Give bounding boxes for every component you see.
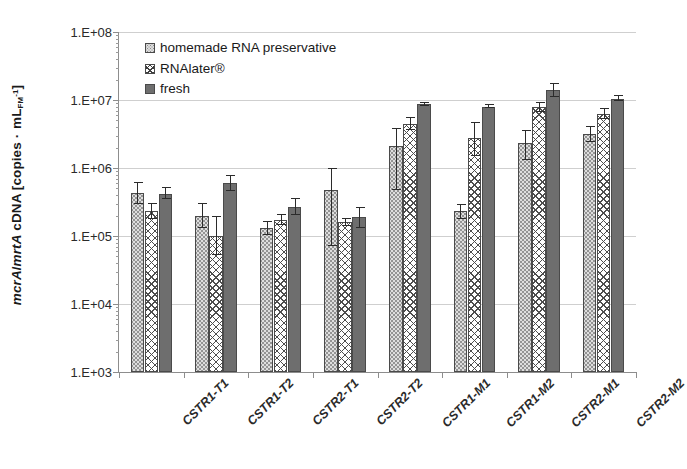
legend-swatch-rnalater-icon: [145, 64, 155, 74]
legend-item-rnalater: RNAlater®: [145, 59, 336, 80]
legend: homemade RNA preservative RNAlater® fres…: [145, 38, 336, 100]
error-bar: [539, 102, 540, 113]
error-bar-cap-bottom: [600, 118, 609, 119]
bar: [223, 183, 237, 372]
error-bar-cap-top: [471, 122, 480, 123]
error-bar-cap-top: [356, 207, 365, 208]
x-axis-category-label: CSTR2-T2: [374, 376, 426, 428]
error-bar-cap-top: [522, 130, 531, 131]
error-bar: [553, 83, 554, 98]
error-bar-cap-top: [600, 108, 609, 109]
y-axis-tick-label: 1.E+06: [42, 161, 112, 176]
error-bar: [331, 168, 332, 246]
bar: [597, 114, 611, 372]
error-bar-cap-bottom: [277, 224, 286, 225]
error-bar: [525, 130, 526, 160]
y-axis-tick-label: 1.E+07: [42, 93, 112, 108]
y-axis-unit-superscript: -1: [11, 89, 20, 96]
error-bar: [604, 108, 605, 119]
error-bar-cap-top: [392, 128, 401, 129]
bar: [482, 107, 496, 372]
error-bar-cap-bottom: [263, 234, 272, 235]
y-axis-tick-label: 1.E+04: [42, 297, 112, 312]
x-axis-category-label: CSTR2-T1: [309, 376, 361, 428]
x-axis-category-label: CSTR1-T1: [180, 376, 232, 428]
bar-group: [507, 32, 572, 372]
error-bar: [281, 214, 282, 225]
y-axis-tick-label: 1.E+05: [42, 229, 112, 244]
x-axis-category-label: CSTR2-M1: [568, 376, 622, 430]
error-bar-cap-bottom: [134, 203, 143, 204]
x-axis-category-label: CSTR1-T2: [244, 376, 296, 428]
error-bar-cap-top: [162, 187, 171, 188]
error-bar-cap-bottom: [328, 245, 337, 246]
error-bar-cap-bottom: [457, 218, 466, 219]
error-bar-cap-bottom: [226, 190, 235, 191]
error-bar-cap-top: [328, 168, 337, 169]
y-axis-slash: /: [9, 266, 24, 270]
error-bar-cap-bottom: [162, 198, 171, 199]
legend-item-homemade: homemade RNA preservative: [145, 38, 336, 59]
error-bar-cap-top: [406, 117, 415, 118]
error-bar: [474, 122, 475, 156]
y-axis-tick-labels: 1.E+081.E+071.E+061.E+051.E+041.E+03: [36, 0, 112, 420]
bar: [403, 124, 417, 372]
error-bar-cap-top: [457, 204, 466, 205]
error-bar-cap-bottom: [342, 225, 351, 226]
error-bar-cap-top: [586, 126, 595, 127]
error-bar-cap-top: [291, 198, 300, 199]
y-axis-title: mcrA/mrtA cDNA [copies · mLFM-1]: [9, 85, 24, 305]
legend-swatch-fresh-icon: [145, 84, 155, 94]
legend-label-fresh: fresh: [160, 79, 190, 100]
bar: [611, 99, 625, 372]
error-bar-cap-top: [198, 203, 207, 204]
error-bar: [410, 117, 411, 130]
error-bar-cap-top: [614, 95, 623, 96]
x-axis-category-labels: CSTR1-T1CSTR1-T2CSTR2-T1CSTR2-T2CSTR1-M1…: [118, 376, 635, 469]
y-axis-middot: ·: [9, 133, 24, 139]
error-bar-cap-top: [420, 102, 429, 103]
error-bar-cap-bottom: [406, 129, 415, 130]
y-axis-unit: mL: [9, 109, 24, 133]
bar-group: [571, 32, 636, 372]
error-bar-cap-top: [342, 218, 351, 219]
bar: [260, 228, 274, 372]
x-axis-category-label: CSTR2-M2: [633, 376, 687, 430]
bar: [145, 211, 159, 372]
error-bar: [151, 203, 152, 220]
bar: [532, 107, 546, 372]
error-bar: [202, 203, 203, 229]
y-axis-tick-label: 1.E+08: [42, 25, 112, 40]
bar: [195, 216, 209, 372]
error-bar-cap-bottom: [550, 96, 559, 97]
error-bar: [396, 128, 397, 190]
plot-area: homemade RNA preservative RNAlater® fres…: [118, 32, 636, 373]
bar: [159, 194, 173, 372]
error-bar-cap-bottom: [485, 107, 494, 108]
error-bar-cap-bottom: [522, 159, 531, 160]
error-bar-cap-bottom: [614, 100, 623, 101]
error-bar-cap-bottom: [148, 218, 157, 219]
error-bar-cap-top: [148, 203, 157, 204]
error-bar: [424, 102, 425, 106]
bar: [209, 236, 223, 372]
bar: [131, 193, 145, 372]
x-axis-category-label: CSTR1-M1: [439, 376, 493, 430]
bar: [583, 134, 597, 372]
error-bar-cap-top: [277, 214, 286, 215]
error-bar-cap-bottom: [291, 214, 300, 215]
bar: [352, 217, 366, 372]
error-bar: [230, 175, 231, 191]
legend-item-fresh: fresh: [145, 79, 336, 100]
error-bar-cap-top: [485, 104, 494, 105]
y-axis-gene-mcra: mcrA: [9, 270, 24, 305]
error-bar-cap-top: [550, 83, 559, 84]
bar: [518, 143, 532, 372]
y-axis-tick-label: 1.E+03: [42, 365, 112, 380]
error-bar-cap-bottom: [356, 227, 365, 228]
bar-group: [442, 32, 507, 372]
legend-label-rnalater: RNAlater®: [160, 59, 225, 80]
error-bar-cap-bottom: [586, 141, 595, 142]
bar: [468, 138, 482, 372]
error-bar: [267, 221, 268, 234]
